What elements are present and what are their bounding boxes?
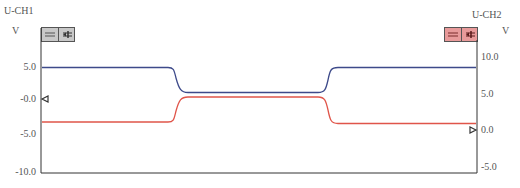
ch1-trace	[42, 68, 476, 93]
ch2-trace	[42, 97, 476, 124]
plot-area	[0, 0, 520, 188]
ch1-zero-marker-icon[interactable]	[42, 96, 48, 102]
ch2-zero-marker-icon[interactable]	[470, 127, 476, 133]
